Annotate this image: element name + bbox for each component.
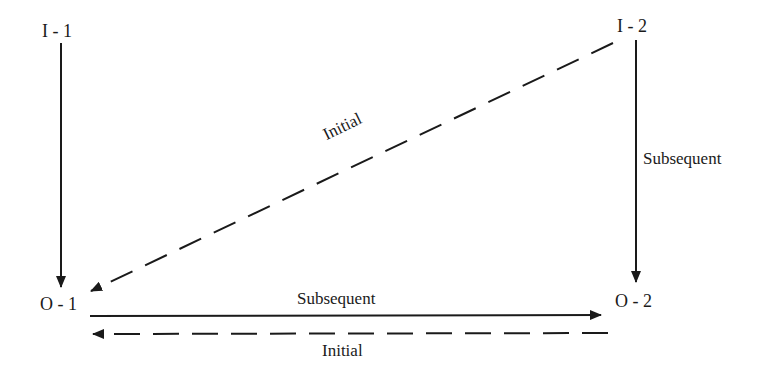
edge-o1-o2-subsequent [90, 315, 601, 316]
edge-label-bottom-initial: Initial [322, 342, 363, 359]
node-o2-label: O - 2 [615, 292, 652, 310]
diagram-canvas: I - 1 I - 2 O - 1 O - 2 Initial Subseque… [0, 0, 783, 374]
node-o1-label: O - 1 [40, 295, 77, 313]
edge-o2-o1-initial [93, 333, 608, 334]
edge-label-bottom-subsequent: Subsequent [297, 290, 375, 307]
edge-i2-o1-initial [91, 43, 613, 291]
node-i1-label: I - 1 [42, 22, 72, 40]
edge-label-right-subsequent: Subsequent [643, 150, 721, 167]
diagram-edges [0, 0, 783, 374]
node-i2-label: I - 2 [617, 17, 647, 35]
